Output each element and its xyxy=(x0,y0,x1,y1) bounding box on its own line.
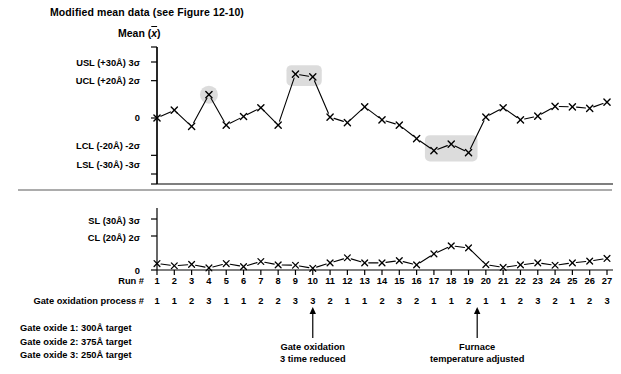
mean-series-segment xyxy=(177,113,188,123)
process-number-cell: 2 xyxy=(511,296,529,306)
annotation-line: 3 time reduced xyxy=(238,353,388,365)
range-series-segment xyxy=(247,263,257,266)
range-series-segment xyxy=(334,259,344,262)
mean-series-segment xyxy=(161,112,171,116)
range-series-segment xyxy=(594,259,603,260)
run-number-cell: 20 xyxy=(477,276,495,286)
annotation-label: Furnacetemperature adjusted xyxy=(402,341,552,365)
run-number-cell: 13 xyxy=(356,276,374,286)
run-number-cell: 6 xyxy=(235,276,253,286)
run-number-cell: 3 xyxy=(183,276,201,286)
note-line: Gate oxide 2: 375Å target xyxy=(20,336,132,350)
range-series-segment xyxy=(386,261,395,262)
process-number-cell: 1 xyxy=(477,296,495,306)
mean-series-segment xyxy=(507,110,517,117)
process-number-cell: 2 xyxy=(321,296,339,306)
process-number-cell: 1 xyxy=(494,296,512,306)
mean-series-segment xyxy=(264,111,275,122)
run-number-cell: 11 xyxy=(321,276,339,286)
run-number-cell: 26 xyxy=(581,276,599,286)
mean-series-segment xyxy=(386,121,395,124)
range-series-segment xyxy=(317,264,327,267)
run-number-cell: 17 xyxy=(425,276,443,286)
range-series-segment xyxy=(559,263,568,264)
run-number-cell: 19 xyxy=(460,276,478,286)
process-number-cell: 3 xyxy=(200,296,218,306)
process-number-cell: 2 xyxy=(546,296,564,306)
run-number-cell: 14 xyxy=(373,276,391,286)
run-number-cell: 7 xyxy=(252,276,270,286)
range-series-segment xyxy=(490,265,499,267)
mean-series-segment xyxy=(280,78,295,121)
process-number-cell: 1 xyxy=(563,296,581,306)
range-series-segment xyxy=(403,262,413,264)
legend-notes: Gate oxide 1: 300Å target Gate oxide 2: … xyxy=(20,322,132,363)
run-number-cell: 22 xyxy=(511,276,529,286)
mean-ytick-label-zero: 0 xyxy=(0,113,140,123)
mean-series-segment xyxy=(525,117,534,119)
process-number-cell: 1 xyxy=(148,296,166,306)
mean-series-segment xyxy=(334,118,343,121)
range-series-segment xyxy=(161,264,170,265)
mean-series-segment xyxy=(350,110,361,120)
run-row-label: Run # xyxy=(0,276,144,286)
process-number-cell: 3 xyxy=(390,296,408,306)
process-number-cell: 3 xyxy=(598,296,616,306)
run-number-cell: 9 xyxy=(286,276,304,286)
run-number-cell: 2 xyxy=(165,276,183,286)
mean-series-segment xyxy=(541,108,551,114)
range-series-segment xyxy=(576,262,585,263)
process-number-cell: 1 xyxy=(338,296,356,306)
range-series-segment xyxy=(507,265,516,266)
mean-ytick-label-lsl: LSL (-30Å) -3σ xyxy=(0,160,140,170)
run-number-cell: 12 xyxy=(338,276,356,286)
highlight-region xyxy=(425,135,478,161)
run-number-cell: 27 xyxy=(598,276,616,286)
mean-series-segment xyxy=(194,98,207,122)
mean-series-segment xyxy=(403,128,414,136)
process-row-label: Gate oxidation process # xyxy=(0,296,144,306)
run-number-cell: 1 xyxy=(148,276,166,286)
process-number-cell: 2 xyxy=(183,296,201,306)
annotation-arrow-head xyxy=(474,307,480,314)
process-number-cell: 2 xyxy=(581,296,599,306)
mean-series-segment xyxy=(490,110,500,115)
range-series-segment xyxy=(178,265,187,266)
range-ytick-label-zero: 0 xyxy=(0,266,140,276)
mean-series-segment xyxy=(577,107,586,108)
process-number-cell: 1 xyxy=(217,296,235,306)
range-series-segment xyxy=(438,248,448,253)
run-number-cell: 18 xyxy=(442,276,460,286)
note-line: Gate oxide 3: 250Å target xyxy=(20,349,132,363)
mean-series-segment xyxy=(368,109,379,117)
process-number-cell: 1 xyxy=(425,296,443,306)
mean-ytick-label-ucl: UCL (+20Å) 2σ xyxy=(0,76,140,86)
process-number-cell: 1 xyxy=(356,296,374,306)
process-number-cell: 1 xyxy=(235,296,253,306)
process-number-cell: 1 xyxy=(442,296,460,306)
range-series-segment xyxy=(542,263,551,264)
range-series-segment xyxy=(299,266,308,268)
note-line: Gate oxide 1: 300Å target xyxy=(20,322,132,336)
mean-series-segment xyxy=(230,118,240,123)
range-ytick-label-sl: SL (30Å) 3σ xyxy=(0,216,140,226)
range-series-segment xyxy=(230,264,239,266)
process-number-cell: 3 xyxy=(529,296,547,306)
process-number-cell: 2 xyxy=(408,296,426,306)
mean-series-segment xyxy=(314,81,328,113)
range-series-segment xyxy=(196,265,205,267)
run-number-cell: 25 xyxy=(563,276,581,286)
process-number-cell: 2 xyxy=(269,296,287,306)
process-number-cell: 1 xyxy=(165,296,183,306)
range-series-segment xyxy=(524,263,533,264)
range-series-segment xyxy=(420,256,431,263)
run-number-cell: 8 xyxy=(269,276,287,286)
run-number-cell: 24 xyxy=(546,276,564,286)
range-series-segment xyxy=(213,265,223,267)
run-number-cell: 10 xyxy=(304,276,322,286)
annotation-line: temperature adjusted xyxy=(402,353,552,365)
chart-canvas xyxy=(0,0,621,374)
process-number-cell: 3 xyxy=(304,296,322,306)
run-number-cell: 5 xyxy=(217,276,235,286)
run-number-cell: 4 xyxy=(200,276,218,286)
